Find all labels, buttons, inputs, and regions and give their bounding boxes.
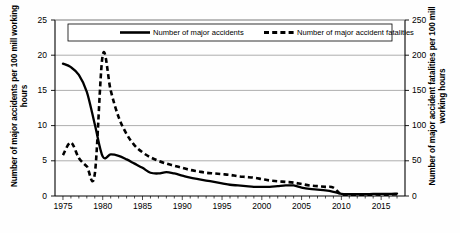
y-axis-right-tick-label: 250 <box>412 15 436 25</box>
x-axis-tick-label: 1995 <box>205 201 239 211</box>
y-axis-left-tick-label: 0 <box>25 191 47 201</box>
y-axis-right-tick-label: 0 <box>412 191 436 201</box>
y-axis-right-tick-label: 100 <box>412 120 436 130</box>
y-axis-left-tick-label: 10 <box>25 120 47 130</box>
y-axis-left-tick-label: 15 <box>25 85 47 95</box>
x-axis-tick-label: 1980 <box>86 201 120 211</box>
legend-label-1: Number of major accidents <box>153 28 244 37</box>
chart-container: Number of major accidents per 100 mill w… <box>0 0 460 233</box>
x-axis-tick-label: 1985 <box>126 201 160 211</box>
plot-area: Number of major accidentsNumber of major… <box>0 0 460 233</box>
y-axis-right-tick-label: 150 <box>412 85 436 95</box>
x-axis-tick-label: 1990 <box>165 201 199 211</box>
x-axis-tick-label: 1975 <box>46 201 80 211</box>
y-axis-right-title: Number of major accident fatalities per … <box>428 0 448 196</box>
y-axis-right-tick-label: 50 <box>412 155 436 165</box>
x-axis-tick-label: 2000 <box>245 201 279 211</box>
y-axis-left-tick-label: 5 <box>25 155 47 165</box>
y-axis-left-tick-label: 25 <box>25 15 47 25</box>
plot-background <box>55 20 405 196</box>
y-axis-left-tick-label: 20 <box>25 50 47 60</box>
x-axis-tick-label: 2015 <box>364 201 398 211</box>
y-axis-right-tick-label: 200 <box>412 50 436 60</box>
x-axis-tick-label: 2010 <box>324 201 358 211</box>
y-axis-left-title: Number of major accidents per 100 mill w… <box>10 0 30 196</box>
legend-label-2: Number of major accident fatalities <box>297 28 414 37</box>
x-axis-tick-label: 2005 <box>285 201 319 211</box>
